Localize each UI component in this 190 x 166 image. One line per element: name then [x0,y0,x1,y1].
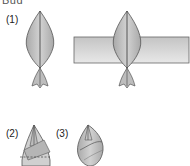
fold-diagram [0,0,190,166]
step3-finished-bud [77,125,103,166]
step1-folded-napkin [26,11,54,88]
step2-wrapped-bud [20,125,50,166]
step1-napkin-with-band [74,11,189,88]
